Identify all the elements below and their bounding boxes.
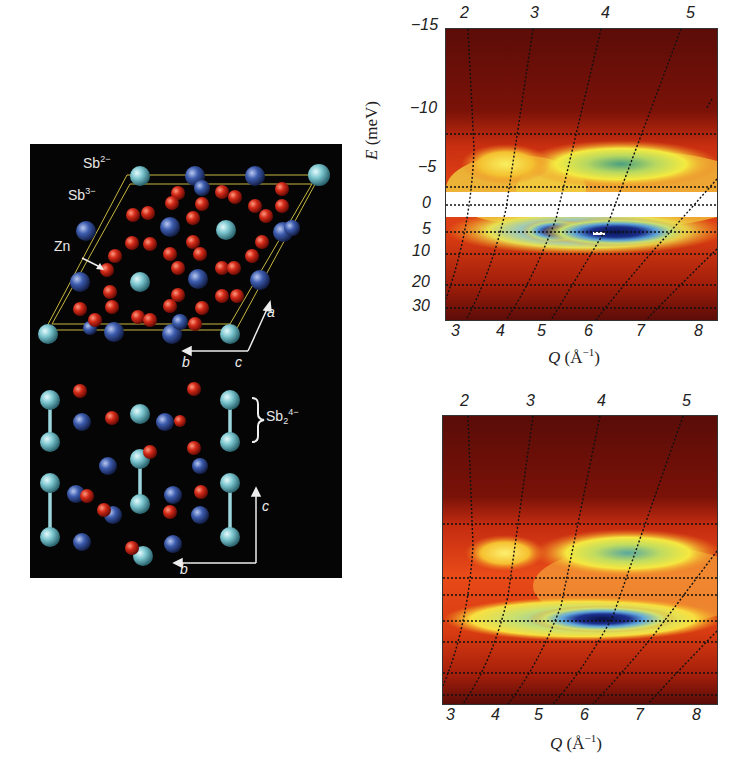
xtick-top-lower-2: 4	[496, 322, 505, 340]
ytick-top-6: 10	[412, 242, 430, 260]
heatmap-measured-image	[446, 29, 717, 320]
ytick-top-3: −5	[418, 158, 436, 176]
xtick-top-upper-3: 4	[601, 4, 610, 22]
xtick-bottom-lower-4: 6	[580, 706, 589, 724]
heatmap-calculated-image	[443, 416, 717, 704]
xtick-top-lower-3: 5	[537, 322, 546, 340]
ytick-top-7: 20	[412, 273, 430, 291]
axis-label-b-bottom: b	[180, 561, 188, 577]
label-sb2-minus: Sb2−	[83, 154, 110, 171]
xtick-bottom-lower-1: 3	[446, 706, 455, 724]
label-sb2-dimer: Sb24−	[266, 407, 298, 426]
axis-label-c-top: c	[235, 354, 242, 370]
axis-label-b-top: b	[182, 354, 190, 370]
ytick-top-4: 0	[422, 194, 431, 212]
xlabel-q-top: Q (Å−1)	[548, 346, 600, 368]
ytick-top-8: 30	[412, 297, 430, 315]
xtick-top-lower-5: 7	[636, 322, 645, 340]
label-zn: Zn	[54, 238, 70, 254]
label-sb3-minus: Sb3−	[68, 186, 95, 203]
xtick-bottom-upper-2: 3	[526, 392, 535, 410]
xtick-bottom-upper-4: 5	[682, 392, 691, 410]
axis-label-c-bottom: c	[262, 498, 269, 514]
xtick-top-lower-4: 6	[584, 322, 593, 340]
xtick-bottom-lower-3: 5	[534, 706, 543, 724]
xtick-top-lower-6: 8	[694, 322, 703, 340]
xtick-top-lower-1: 3	[451, 322, 460, 340]
xtick-top-upper-2: 3	[530, 4, 539, 22]
xtick-bottom-upper-3: 4	[597, 392, 606, 410]
xlabel-q-bottom: Q (Å−1)	[550, 732, 602, 754]
xtick-top-upper-4: 5	[686, 4, 695, 22]
ytick-top-1: −15	[411, 16, 438, 34]
ytick-top-2: −10	[410, 99, 437, 117]
ytick-top-5: 5	[422, 220, 431, 238]
ylabel-energy: E (meV)	[362, 101, 382, 160]
crystal-structure-panel: Sb2− Sb3− Zn Sb24− a b c c b	[30, 144, 342, 578]
heatmap-measured	[445, 28, 718, 321]
heatmap-calculated	[442, 415, 718, 705]
xtick-bottom-lower-5: 7	[635, 706, 644, 724]
xtick-bottom-lower-2: 4	[491, 706, 500, 724]
xtick-top-upper-1: 2	[460, 4, 469, 22]
xtick-bottom-upper-1: 2	[460, 392, 469, 410]
axis-label-a-top: a	[267, 304, 275, 320]
xtick-bottom-lower-6: 8	[692, 706, 701, 724]
